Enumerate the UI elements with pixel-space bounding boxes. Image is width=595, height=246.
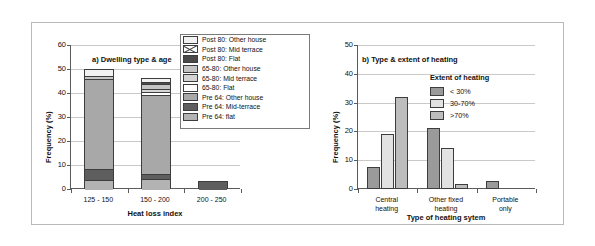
y-tick-label: 10 xyxy=(44,160,66,169)
chart-panel-dwelling-type: Frequency (%) a) Dwelling type & age Hea… xyxy=(32,23,322,224)
y-tick xyxy=(354,103,358,104)
legend-swatch xyxy=(183,36,198,44)
y-tick-label: 10 xyxy=(331,155,353,164)
legend-swatch xyxy=(430,111,444,120)
legend-label: 65-80: Flat xyxy=(202,84,235,91)
x-tick-label: 150 - 200 xyxy=(127,195,184,204)
grouped-bar xyxy=(395,97,408,189)
grouped-bar xyxy=(427,128,440,189)
x-tick xyxy=(128,189,129,193)
y-tick xyxy=(354,45,358,46)
legend-label: 65-80: Other house xyxy=(202,65,261,72)
legend-swatch xyxy=(183,74,198,82)
legend-label: < 30% xyxy=(450,87,471,96)
y-tick-label: 30 xyxy=(331,98,353,107)
x-axis-title-b: Type of heating sytem xyxy=(357,213,535,222)
legend-swatch xyxy=(183,93,198,101)
y-tick xyxy=(67,45,71,46)
x-axis-title-a: Heat loss index xyxy=(70,209,240,218)
legend-label: 30-70% xyxy=(450,99,475,108)
y-tick xyxy=(354,131,358,132)
legend-label: Pre 64: Mid-terrace xyxy=(202,103,260,110)
y-tick-label: 30 xyxy=(44,112,66,121)
bar-segment xyxy=(142,95,170,174)
x-tick xyxy=(477,189,478,193)
x-tick xyxy=(184,189,185,193)
legend-label: Post 80: Mid terrace xyxy=(202,46,263,53)
y-tick-label: 20 xyxy=(44,136,66,145)
x-tick-label: Other fixedheating xyxy=(416,195,475,213)
gridline xyxy=(358,131,535,132)
y-tick xyxy=(67,117,71,118)
legend-item: >70% xyxy=(430,109,489,121)
x-tick-label: 200 - 250 xyxy=(183,195,240,204)
legend-swatch xyxy=(183,113,198,121)
legend-item: Pre 64: Mid-terrace xyxy=(181,102,309,112)
legend-a: Post 80: Other housePost 80: Mid terrace… xyxy=(180,34,310,129)
legend-swatch xyxy=(183,45,198,53)
x-tick-label: 125 - 150 xyxy=(70,195,127,204)
y-tick-label: 40 xyxy=(331,69,353,78)
grouped-bar xyxy=(441,148,454,189)
y-tick xyxy=(67,69,71,70)
y-tick xyxy=(67,93,71,94)
stacked-bar xyxy=(84,69,114,189)
x-tick xyxy=(71,189,72,193)
legend-swatch xyxy=(183,84,198,92)
gridline xyxy=(358,45,535,46)
legend-item: 65-80: Mid terrace xyxy=(181,73,309,83)
legend-title: Extent of heating xyxy=(430,73,489,82)
chart-panel-heating: Frequency (%) b) Type & extent of heatin… xyxy=(322,23,565,224)
legend-label: Pre 64: Other house xyxy=(202,94,263,101)
stacked-bar xyxy=(141,78,171,189)
legend-swatch xyxy=(430,99,444,108)
y-tick-label: 20 xyxy=(331,126,353,135)
legend-item: Pre 64: Other house xyxy=(181,93,309,103)
grouped-bar xyxy=(486,181,499,189)
legend-item: Post 80: Mid terrace xyxy=(181,45,309,55)
legend-label: 65-80: Mid terrace xyxy=(202,75,257,82)
y-tick-label: 0 xyxy=(331,184,353,193)
stacked-bar xyxy=(198,181,228,189)
legend-item: < 30% xyxy=(430,85,489,97)
y-tick xyxy=(67,141,71,142)
figure-frame: Frequency (%) a) Dwelling type & age Hea… xyxy=(31,22,564,225)
y-tick-label: 0 xyxy=(44,184,66,193)
bar-segment xyxy=(142,179,170,190)
bar-segment xyxy=(85,169,113,180)
x-tick xyxy=(358,189,359,193)
y-tick xyxy=(354,160,358,161)
legend-item: Post 80: Flat xyxy=(181,54,309,64)
legend-swatch xyxy=(183,55,198,63)
y-tick-label: 50 xyxy=(331,40,353,49)
legend-item: 30-70% xyxy=(430,97,489,109)
legend-label: Post 80: Other house xyxy=(202,36,266,43)
bar-segment xyxy=(199,182,227,190)
x-tick-label: Portableonly xyxy=(476,195,535,213)
x-tick-label: Centralheating xyxy=(357,195,416,213)
y-tick xyxy=(67,165,71,166)
legend-label: Post 80: Flat xyxy=(202,55,240,62)
bar-segment xyxy=(85,79,113,169)
legend-item: 65-80: Flat xyxy=(181,83,309,93)
legend-b: Extent of heating< 30%30-70%>70% xyxy=(430,73,489,121)
grouped-bar xyxy=(367,167,380,189)
y-tick xyxy=(354,74,358,75)
grouped-bar xyxy=(455,184,468,189)
bar-segment xyxy=(85,180,113,190)
legend-swatch xyxy=(430,87,444,96)
legend-item: Post 80: Other house xyxy=(181,35,309,45)
legend-item: Pre 64: flat xyxy=(181,112,309,122)
x-tick xyxy=(536,189,537,193)
legend-label: >70% xyxy=(450,111,469,120)
legend-swatch xyxy=(183,65,198,73)
legend-swatch xyxy=(183,103,198,111)
y-tick-label: 50 xyxy=(44,64,66,73)
y-tick-label: 60 xyxy=(44,40,66,49)
legend-item: 65-80: Other house xyxy=(181,64,309,74)
y-tick-label: 40 xyxy=(44,88,66,97)
x-tick xyxy=(417,189,418,193)
legend-label: Pre 64: flat xyxy=(202,113,235,120)
grouped-bar xyxy=(381,134,394,189)
x-tick xyxy=(241,189,242,193)
